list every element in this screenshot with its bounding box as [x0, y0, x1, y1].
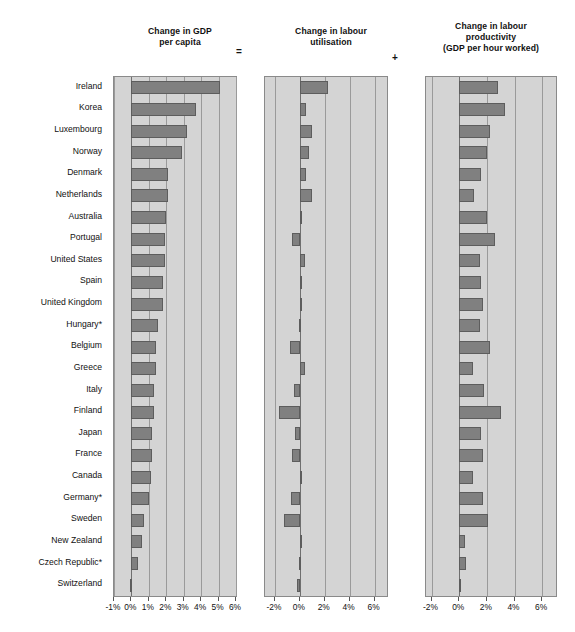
gridline: [515, 77, 516, 596]
x-tick-mark: [148, 597, 149, 601]
category-label: France: [0, 448, 106, 458]
x-tick-mark: [200, 597, 201, 601]
bar: [131, 535, 141, 548]
panel-title-2: Change in labourutilisation: [263, 26, 399, 48]
category-label: Denmark: [0, 167, 106, 177]
bar: [131, 81, 220, 94]
category-label: Ireland: [0, 81, 106, 91]
x-tick-label: 4%: [194, 602, 206, 612]
x-tick-label: -2%: [423, 602, 438, 612]
x-tick-mark: [274, 597, 275, 601]
category-label: Finland: [0, 405, 106, 415]
bar: [459, 254, 480, 267]
bar: [300, 211, 302, 224]
category-label: Switzerland: [0, 578, 106, 588]
bar: [131, 492, 148, 505]
bar: [459, 384, 484, 397]
panel-title-line: Change in GDP: [112, 26, 248, 37]
x-tick-label: 0%: [452, 602, 464, 612]
bar: [459, 514, 488, 527]
bar: [300, 125, 312, 138]
bar: [459, 579, 461, 592]
bar: [131, 319, 157, 332]
bar: [300, 254, 305, 267]
bar: [300, 81, 329, 94]
x-tick-label: 2%: [318, 602, 330, 612]
bar: [290, 341, 300, 354]
panel-title-line: Change in labour: [263, 26, 399, 37]
bar: [131, 427, 152, 440]
bar: [131, 168, 168, 181]
x-tick-label: 4%: [507, 602, 519, 612]
x-tick-mark: [324, 597, 325, 601]
bar: [459, 492, 483, 505]
panel-title-1: Change in GDPper capita: [112, 26, 248, 48]
bar: [300, 362, 305, 375]
category-label: Czech Republic*: [0, 557, 106, 567]
category-label: United Kingdom: [0, 297, 106, 307]
bar: [300, 146, 309, 159]
plot-panel-3: [425, 76, 557, 597]
bar: [299, 319, 301, 332]
bar: [459, 449, 483, 462]
x-tick-mark: [218, 597, 219, 601]
bar: [459, 168, 481, 181]
category-label: Netherlands: [0, 189, 106, 199]
panel-title-line: (GDP per hour worked): [419, 43, 563, 54]
bar: [459, 319, 480, 332]
bar: [131, 103, 195, 116]
gridline: [201, 77, 202, 596]
bar: [459, 81, 498, 94]
x-tick-label: -1%: [106, 602, 121, 612]
panel-title-line: Change in labour: [419, 21, 563, 32]
operator-plus: +: [392, 52, 398, 63]
x-tick-mark: [458, 597, 459, 601]
bar: [295, 427, 300, 440]
bar: [300, 168, 306, 181]
bar: [459, 125, 489, 138]
bar: [459, 427, 481, 440]
operator-equals: =: [236, 46, 242, 57]
x-tick-mark: [374, 597, 375, 601]
x-tick-label: 0%: [124, 602, 136, 612]
bar: [291, 492, 300, 505]
three-panel-bar-chart-figure: Change in GDPper capitaChange in labouru…: [0, 0, 575, 632]
x-tick-mark: [486, 597, 487, 601]
x-tick-mark: [431, 597, 432, 601]
bar: [131, 362, 155, 375]
category-label: Canada: [0, 470, 106, 480]
bar: [459, 189, 474, 202]
bar: [459, 103, 505, 116]
category-label: Germany*: [0, 492, 106, 502]
bar: [131, 384, 154, 397]
bar: [131, 471, 150, 484]
plot-panel-1: [113, 76, 237, 597]
bar: [131, 514, 143, 527]
x-tick-label: 1%: [142, 602, 154, 612]
bar: [299, 557, 301, 570]
bar: [292, 449, 299, 462]
panel-title-3: Change in labourproductivity(GDP per hou…: [419, 21, 563, 54]
panel-title-line: productivity: [419, 32, 563, 43]
bar: [459, 341, 489, 354]
bar: [284, 514, 300, 527]
gridline: [219, 77, 220, 596]
bar: [459, 557, 466, 570]
x-tick-label: 4%: [343, 602, 355, 612]
bar: [131, 449, 152, 462]
gridline: [542, 77, 543, 596]
bar: [300, 189, 312, 202]
category-label: Belgium: [0, 340, 106, 350]
bar: [459, 471, 473, 484]
panel-title-line: utilisation: [263, 37, 399, 48]
x-tick-label: 3%: [177, 602, 189, 612]
category-label: New Zealand: [0, 535, 106, 545]
x-tick-label: 5%: [212, 602, 224, 612]
x-tick-mark: [349, 597, 350, 601]
x-tick-mark: [113, 597, 114, 601]
category-label: Greece: [0, 362, 106, 372]
category-label: Australia: [0, 211, 106, 221]
bar: [131, 406, 154, 419]
x-tick-mark: [183, 597, 184, 601]
gridline: [350, 77, 351, 596]
